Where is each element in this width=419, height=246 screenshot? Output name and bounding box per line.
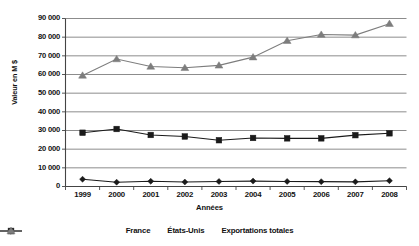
legend-label: Exportations totales xyxy=(221,226,293,235)
line-chart: Valeur en M $ 90 00080 00070 00060 00050… xyxy=(0,0,419,246)
legend-label: États-Unis xyxy=(167,226,204,235)
x-axis-title: Années xyxy=(0,203,419,212)
x-axis-tick-label: 2008 xyxy=(369,190,409,199)
legend-item[interactable]: Exportations totales xyxy=(221,226,293,235)
chart-legend: FranceÉtats-UnisExportations totales xyxy=(0,226,419,235)
legend-label: France xyxy=(126,226,151,235)
legend-marker-triangle-icon xyxy=(0,226,22,236)
legend-item[interactable]: France xyxy=(126,226,151,235)
legend-item[interactable]: États-Unis xyxy=(167,226,204,235)
